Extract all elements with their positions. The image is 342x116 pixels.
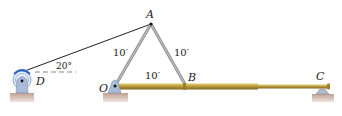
cable-DA xyxy=(22,24,151,72)
label-B: B xyxy=(187,71,196,84)
pin-A xyxy=(149,22,152,25)
dimension-OA: 10′ xyxy=(113,47,129,58)
label-A: A xyxy=(145,8,154,21)
ground-C xyxy=(312,94,334,102)
dimension-AB: 10′ xyxy=(174,47,190,58)
label-O: O xyxy=(99,82,108,95)
pulley-bracket xyxy=(16,77,28,94)
dimension-OB: 10′ xyxy=(145,70,161,81)
rod-OB-thick-section xyxy=(118,84,258,90)
rod-end-cap xyxy=(327,84,330,90)
label-D: D xyxy=(35,75,45,88)
ground-D xyxy=(10,93,34,102)
mechanism-diagram: 20° D A O B C 10′ 10′ 10′ xyxy=(0,0,342,116)
rod-thin-section xyxy=(258,85,328,89)
roller-support-C xyxy=(312,89,334,102)
angle-label: 20° xyxy=(56,61,72,71)
pulley-D xyxy=(10,70,34,102)
label-C: C xyxy=(316,70,325,83)
